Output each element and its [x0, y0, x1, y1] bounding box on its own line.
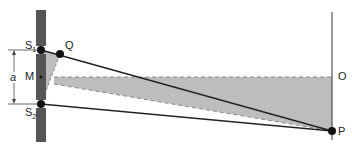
arrowhead-up-icon: [12, 50, 16, 55]
label-q: Q: [65, 40, 74, 51]
barrier-bottom: [36, 108, 46, 142]
barrier-top: [36, 10, 46, 46]
point-s2: [37, 100, 45, 108]
point-p: [328, 127, 336, 135]
label-o: O: [338, 71, 347, 82]
point-q: [56, 50, 64, 58]
point-m: [40, 76, 43, 79]
diagram-canvas: [0, 0, 352, 153]
label-p: P: [338, 126, 345, 137]
label-s1: S1: [25, 40, 36, 53]
point-s1: [37, 46, 45, 54]
large-shaded-region: [54, 77, 332, 131]
label-a: a: [10, 72, 16, 83]
label-s2: S2: [25, 107, 36, 120]
label-m: M: [25, 71, 34, 82]
arrowhead-down-icon: [12, 99, 16, 104]
